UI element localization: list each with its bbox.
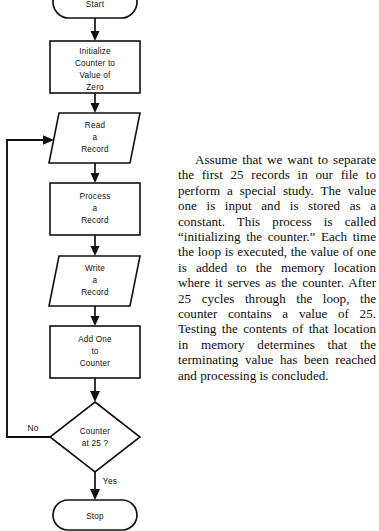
connector-read-to-process [91,163,100,183]
node-read: Read a Record [49,113,140,163]
node-process-label-line-1: a [93,204,98,213]
node-initialize-label-line-0: Initialize [79,47,111,56]
node-start-label-line-0: Start [86,0,105,9]
node-decision-label-line-0: Counter [80,427,111,436]
connector-process-to-write [91,235,100,256]
feedback-loop-no-branch: No [7,135,54,437]
decision-shape [50,402,140,472]
connector-decision-to-stop: Yes [90,472,117,500]
node-initialize: Initialize Counter to Value of Zero [50,41,140,93]
figure-page: Start Initialize Counter to Value of Zer… [0,0,379,531]
arrowhead-icon [91,246,100,256]
node-start: Start [53,0,137,18]
arrowhead-icon [91,173,100,183]
arrowhead-icon [91,103,100,113]
node-initialize-label-line-2: Value of [79,71,111,80]
connector-write-to-addone [91,306,100,326]
arrowhead-icon [90,489,100,500]
node-process: Process a Record [50,183,140,235]
connector-start-to-initialize [91,18,100,41]
arrowhead-icon [90,391,100,402]
flowchart-diagram: Start Initialize Counter to Value of Zer… [0,0,190,531]
node-read-label-line-1: a [93,133,98,142]
node-addone-label-line-2: Counter [80,359,111,368]
node-read-label-line-0: Read [85,121,106,130]
node-stop-label-line-0: Stop [86,512,104,521]
connector-initialize-to-read [91,93,100,113]
node-write-label-line-1: a [93,276,98,285]
node-write-label-line-0: Write [85,264,105,273]
branch-label-yes: Yes [103,476,117,486]
node-process-label-line-2: Record [81,216,109,225]
node-addone-label-line-0: Add One [78,335,112,344]
node-initialize-label-line-3: Zero [86,83,104,92]
node-write-label-line-2: Record [81,288,109,297]
node-process-label-line-0: Process [80,192,111,201]
node-decision: Counter at 25 ? [50,402,140,472]
node-stop: Stop [53,500,137,530]
node-decision-label-line-1: at 25 ? [82,439,109,448]
node-addone: Add One to Counter [50,326,140,378]
explanatory-paragraph: Assume that we want to separate the firs… [178,152,376,383]
node-addone-label-line-1: to [91,347,98,356]
arrowhead-icon [91,31,100,41]
node-write: Write a Record [49,256,140,306]
connector-addone-to-decision [90,378,100,402]
node-initialize-label-line-1: Counter to [75,59,115,68]
node-read-label-line-2: Record [81,145,109,154]
paragraph-text: Assume that we want to separate the firs… [178,152,376,383]
branch-label-no: No [27,423,38,433]
arrowhead-icon [91,316,100,326]
